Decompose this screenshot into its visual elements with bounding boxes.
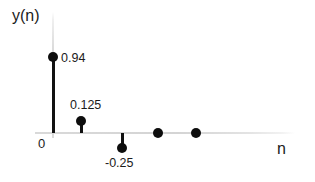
stem-marker-n3 bbox=[153, 128, 163, 138]
x-axis-line bbox=[35, 132, 295, 134]
value-label-n1: 0.125 bbox=[70, 99, 101, 112]
x-axis-label: n bbox=[277, 141, 286, 157]
stem-marker-n0 bbox=[48, 52, 58, 62]
stem-marker-n2 bbox=[117, 143, 127, 153]
stem-line-n0 bbox=[52, 58, 55, 133]
y-axis-label: y(n) bbox=[12, 8, 40, 24]
value-label-n0: 0.94 bbox=[61, 52, 85, 65]
value-label-n2: -0.25 bbox=[105, 157, 134, 170]
stem-marker-n1 bbox=[76, 116, 86, 126]
origin-tick-label: 0 bbox=[38, 137, 45, 150]
stem-marker-n4 bbox=[191, 128, 201, 138]
stem-plot-figure: y(n) n 0 0.94 0.125 -0.25 bbox=[0, 0, 315, 182]
